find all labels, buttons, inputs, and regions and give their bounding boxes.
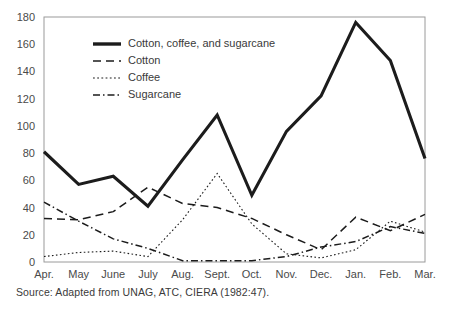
x-axis-tick-label: Jan.	[345, 268, 366, 280]
series-line-total	[44, 22, 425, 206]
y-axis-tick-label: 80	[23, 147, 35, 159]
chart-legend: Cotton, coffee, and sugarcaneCottonCoffe…	[93, 37, 275, 100]
y-axis-tick-label: 140	[17, 65, 35, 77]
y-axis-tick-label: 120	[17, 93, 35, 105]
y-axis-tick-label: 180	[17, 11, 35, 23]
x-axis-tick-label: Nov.	[276, 268, 298, 280]
plot-frame	[44, 17, 425, 262]
legend-label-sugarcane: Sugarcane	[128, 88, 181, 100]
x-axis-tick-label: July	[138, 268, 158, 280]
y-axis-tick-label: 100	[17, 120, 35, 132]
x-axis-tick-label: May	[68, 268, 89, 280]
legend-label-cotton: Cotton	[128, 54, 160, 66]
x-axis-tick-label: Dec.	[310, 268, 333, 280]
series-line-cotton	[44, 187, 425, 250]
x-axis-tick-label: Sept.	[204, 268, 230, 280]
y-axis-tick-label: 160	[17, 38, 35, 50]
y-axis-tick-label: 40	[23, 202, 35, 214]
x-axis-tick-label: Aug.	[171, 268, 194, 280]
y-axis-tick-label: 0	[29, 256, 35, 268]
legend-label-coffee: Coffee	[128, 71, 160, 83]
y-axis-tick-label: 20	[23, 229, 35, 241]
x-axis-tick-label: Feb.	[379, 268, 401, 280]
figure-container: 020406080100120140160180Apr.MayJuneJulyA…	[0, 0, 457, 316]
source-note: Source: Adapted from UNAG, ATC, CIERA (1…	[16, 286, 269, 298]
x-axis-tick-label: June	[101, 268, 125, 280]
line-chart: 020406080100120140160180Apr.MayJuneJulyA…	[0, 0, 457, 316]
series-line-coffee	[44, 174, 425, 258]
x-axis-tick-label: Mar.	[414, 268, 435, 280]
legend-label-total: Cotton, coffee, and sugarcane	[128, 37, 275, 49]
y-axis-tick-label: 60	[23, 174, 35, 186]
x-axis-tick-label: Apr.	[34, 268, 54, 280]
x-axis-tick-label: Oct.	[242, 268, 262, 280]
